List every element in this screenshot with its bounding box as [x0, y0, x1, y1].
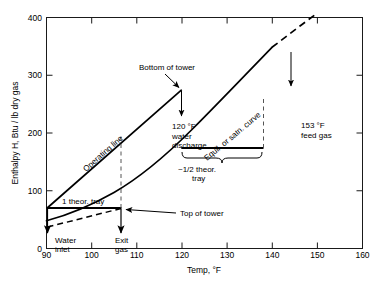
- water-discharge-temp: 120 °F: [172, 122, 196, 131]
- enthalpy-temperature-chart: 400 300 200 100 0 90 100 110 120 130 140…: [0, 0, 385, 287]
- y-axis-title: Enthalpy H, Btu / lb dry gas: [10, 82, 20, 185]
- exit-gas-line1: Exit: [115, 236, 129, 245]
- feed-gas-label: feed gas: [301, 131, 332, 140]
- operating-line-label: Operating line: [81, 133, 125, 173]
- top-of-tower-label: Top of tower: [180, 209, 224, 218]
- x-axis-title: Temp, °F: [187, 265, 221, 275]
- feed-gas-annotation: 153 °F feed gas: [291, 52, 332, 140]
- half-tray-brace: ~1/2 theor. tray: [178, 152, 262, 183]
- equilibrium-curve-extrapolation: [272, 14, 316, 47]
- x-tick-label-130: 130: [220, 250, 234, 260]
- x-tick-label-110: 110: [130, 250, 144, 260]
- y-tick-label-300: 300: [28, 70, 42, 80]
- x-tick-label-150: 150: [310, 250, 324, 260]
- half-tray-label-line1: ~1/2 theor.: [178, 165, 216, 174]
- y-tick-label-100: 100: [28, 186, 42, 196]
- bottom-of-tower-label: Bottom of tower: [139, 63, 195, 72]
- feed-gas-temp: 153 °F: [301, 121, 325, 130]
- top-of-tower-annotation: Top of tower: [126, 209, 224, 218]
- bottom-of-tower-annotation: Bottom of tower: [139, 63, 195, 88]
- x-tick-label-140: 140: [265, 250, 279, 260]
- one-theor-tray-label: 1 theor. tray: [62, 197, 104, 206]
- x-tick-label-90: 90: [42, 250, 52, 260]
- y-tick-label-400: 400: [28, 13, 42, 23]
- chart-canvas: 400 300 200 100 0 90 100 110 120 130 140…: [0, 0, 385, 287]
- y-tick-label-200: 200: [28, 128, 42, 138]
- half-tray-label-line2: tray: [192, 174, 205, 183]
- equilibrium-curve-label: Equil. or satn. curve: [203, 110, 263, 163]
- exit-gas-annotation: Exit gas: [115, 209, 129, 254]
- water-discharge-line1: water: [171, 132, 192, 141]
- exit-gas-line2: gas: [115, 245, 128, 254]
- water-discharge-line2: discharge: [172, 141, 207, 150]
- water-inlet-line2: inlet: [55, 245, 70, 254]
- x-tick-label-160: 160: [355, 250, 369, 260]
- x-tick-label-100: 100: [85, 250, 99, 260]
- x-tick-label-120: 120: [175, 250, 189, 260]
- water-inlet-line1: Water: [55, 236, 76, 245]
